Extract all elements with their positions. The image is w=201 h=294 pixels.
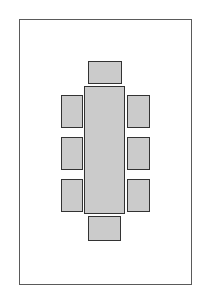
chair-left-3: [61, 179, 83, 212]
chair-foot: [88, 216, 121, 241]
chair-left-2: [61, 137, 83, 170]
chair-left-1: [61, 95, 83, 128]
chair-right-2: [127, 137, 150, 170]
chair-right-3: [127, 179, 150, 212]
diagram-title: Dining table seating plan: [20, 20, 21, 21]
chair-right-1: [127, 95, 150, 128]
table: [84, 86, 125, 214]
chair-head: [88, 61, 122, 84]
